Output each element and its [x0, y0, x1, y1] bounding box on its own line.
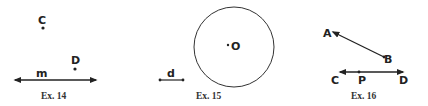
figure-ex-14: C D m Ex. 14 — [15, 14, 96, 101]
point-p — [358, 71, 361, 74]
figure-ex-15: O d Ex. 15 — [159, 7, 274, 101]
segment-d-label: d — [167, 67, 175, 80]
point-c — [41, 26, 44, 29]
point-c-label-16: C — [331, 74, 339, 87]
ray-ab — [333, 32, 384, 57]
caption-ex-14: Ex. 14 — [41, 91, 67, 101]
center-point — [227, 44, 229, 46]
center-o-label: O — [231, 40, 240, 53]
point-a-label: A — [323, 27, 332, 40]
caption-ex-15: Ex. 15 — [196, 91, 222, 101]
figure-ex-16: A B C P D Ex. 16 — [323, 27, 408, 101]
point-d-label: D — [71, 54, 80, 67]
point-c-label: C — [38, 14, 46, 27]
geometry-exercises: C D m Ex. 14 O d Ex. 15 A B C P D Ex. 16 — [0, 0, 428, 106]
line-m-label: m — [36, 67, 47, 80]
point-d-label-16: D — [399, 74, 408, 87]
point-d — [73, 67, 76, 70]
segment-d-endpoint — [182, 79, 185, 82]
point-b-label: B — [384, 53, 392, 66]
point-p-label: P — [358, 74, 366, 87]
caption-ex-16: Ex. 16 — [351, 91, 377, 101]
segment-d-endpoint — [159, 79, 162, 82]
